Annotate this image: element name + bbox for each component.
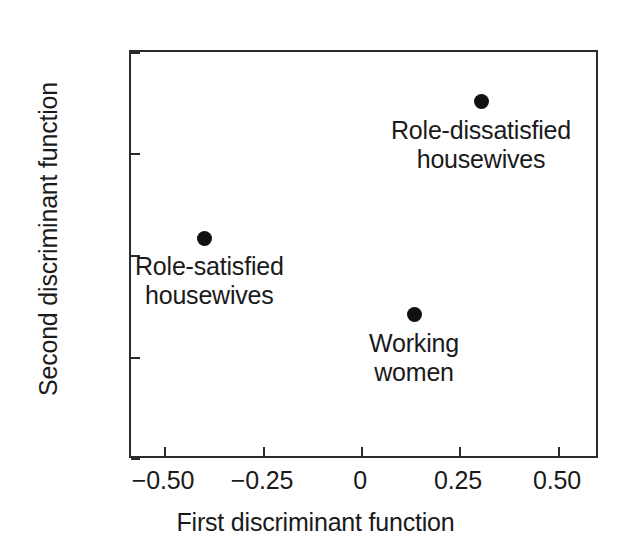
plot-area: Role-dissatisfied housewives Role-satisf…: [129, 50, 598, 458]
annotation-line-2: women: [369, 358, 459, 387]
x-tick-label-3: 0.25: [434, 468, 482, 493]
x-tick-mark-1: [263, 447, 265, 456]
x-tick-label-1: −0.25: [231, 468, 293, 493]
y-tick-mark-1: [131, 153, 140, 155]
x-tick-label-0: −0.50: [132, 468, 194, 493]
annotation-line-1: Role-satisfied: [135, 252, 284, 281]
annotation-line-1: Role-dissatisfied: [391, 116, 571, 145]
x-tick-mark-4: [558, 447, 560, 456]
y-tick-mark-4: [131, 458, 140, 460]
x-tick-mark-0: [164, 447, 166, 456]
y-tick-mark-0: [131, 52, 140, 54]
data-point-role-dissatisfied-housewives[interactable]: [474, 94, 489, 109]
y-tick-mark-3: [131, 357, 140, 359]
y-axis-title: Second discriminant function: [34, 29, 62, 449]
annotation-line-1: Working: [369, 329, 459, 358]
x-tick-label-2: 0: [353, 468, 367, 493]
x-tick-mark-3: [459, 447, 461, 456]
scatter-plot-figure: 0.50 0.25 0 −0.25 −0.50 −0.50 −0.25 0 0.…: [0, 0, 631, 553]
x-tick-mark-2: [361, 447, 363, 456]
annotation-line-2: housewives: [135, 281, 284, 310]
annotation-role-dissatisfied-housewives: Role-dissatisfied housewives: [391, 116, 571, 174]
annotation-role-satisfied-housewives: Role-satisfied housewives: [135, 252, 284, 310]
x-axis-title: First discriminant function: [0, 508, 631, 536]
x-tick-label-4: 0.50: [533, 468, 581, 493]
annotation-line-2: housewives: [391, 145, 571, 174]
data-point-working-women[interactable]: [407, 307, 422, 322]
data-point-role-satisfied-housewives[interactable]: [197, 231, 212, 246]
annotation-working-women: Working women: [369, 329, 459, 387]
